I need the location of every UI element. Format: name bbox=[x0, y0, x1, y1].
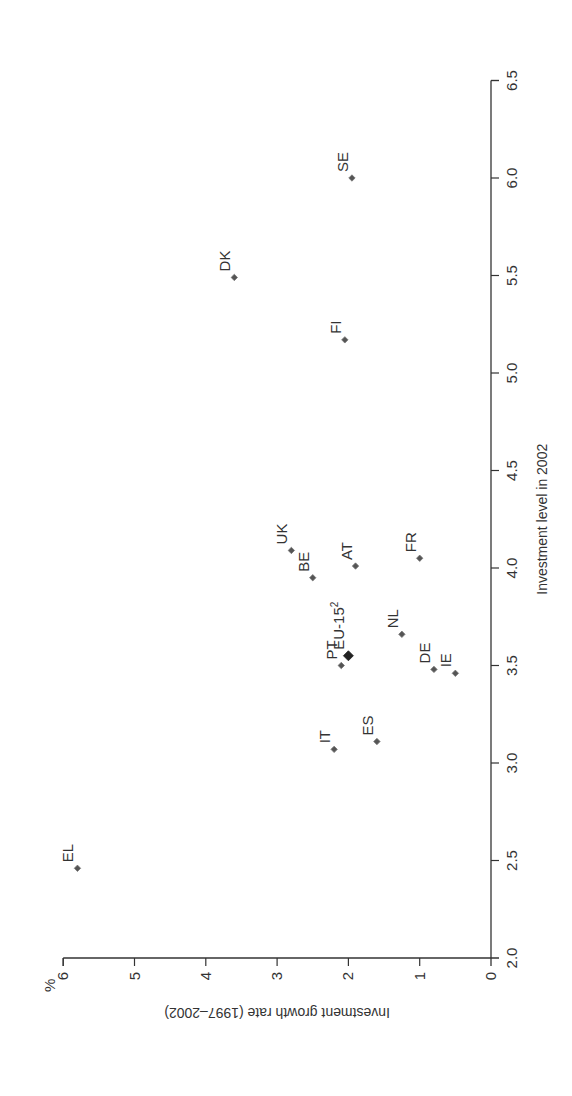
point-label: FR bbox=[402, 532, 419, 552]
diamond-marker bbox=[288, 547, 294, 553]
data-point: EL bbox=[59, 844, 80, 872]
diamond-marker bbox=[399, 631, 405, 637]
diamond-marker bbox=[338, 662, 344, 668]
diamond-marker bbox=[431, 666, 437, 672]
x-tick-label: 2.5 bbox=[503, 850, 520, 871]
point-label: DE bbox=[416, 643, 433, 664]
data-point: AT bbox=[338, 542, 359, 569]
data-point: UK bbox=[273, 524, 294, 554]
point-label: BE bbox=[295, 552, 312, 572]
x-tick-label: 3.0 bbox=[503, 753, 520, 774]
data-point: SE bbox=[334, 152, 355, 181]
scatter-chart: 2.02.53.03.54.04.55.05.56.06.50123456 EL… bbox=[0, 0, 572, 1096]
point-label: EU-152 bbox=[329, 601, 347, 650]
y-tick-label: 4 bbox=[197, 972, 214, 980]
diamond-marker bbox=[417, 555, 423, 561]
x-tick-label: 2.0 bbox=[503, 948, 520, 969]
x-tick-label: 5.0 bbox=[503, 363, 520, 384]
point-label: DK bbox=[216, 251, 233, 272]
x-tick-label: 6.0 bbox=[503, 168, 520, 189]
data-point: DE bbox=[416, 643, 437, 673]
x-tick-label: 5.5 bbox=[503, 265, 520, 286]
diamond-marker bbox=[331, 746, 337, 752]
x-axis-title: Investment level in 2002 bbox=[534, 444, 550, 595]
data-point: BE bbox=[295, 552, 316, 581]
point-label: UK bbox=[273, 524, 290, 545]
point-label: EL bbox=[59, 844, 76, 862]
y-tick-label: 1 bbox=[411, 972, 428, 980]
diamond-marker bbox=[310, 575, 316, 581]
data-point: NL bbox=[384, 609, 405, 637]
point-label: SE bbox=[334, 152, 351, 172]
point-label: NL bbox=[384, 609, 401, 628]
point-label: IE bbox=[437, 653, 454, 667]
y-axis-title: Investment growth rate (1997–2002) bbox=[164, 1005, 390, 1021]
diamond-marker bbox=[452, 670, 458, 676]
y-tick-label: 5 bbox=[126, 972, 143, 980]
diamond-marker bbox=[349, 175, 355, 181]
data-point: FI bbox=[327, 321, 348, 344]
diamond-marker bbox=[343, 651, 353, 661]
point-label: AT bbox=[338, 542, 355, 560]
y-tick-label: 0 bbox=[482, 972, 499, 980]
diamond-marker bbox=[374, 738, 380, 744]
diamond-marker bbox=[352, 563, 358, 569]
data-point: ES bbox=[359, 716, 380, 745]
data-point: IE bbox=[437, 653, 458, 676]
data-points: ELITESIEDEPTEU-152NLBEATFRUKFIDKSE bbox=[59, 152, 458, 872]
point-label: FI bbox=[327, 321, 344, 334]
y-axis-unit: % bbox=[41, 979, 58, 992]
point-label: ES bbox=[359, 716, 376, 736]
diamond-marker bbox=[74, 865, 80, 871]
x-tick-label: 4.0 bbox=[503, 558, 520, 579]
diamond-marker bbox=[231, 274, 237, 280]
x-tick-label: 4.5 bbox=[503, 460, 520, 481]
x-tick-label: 3.5 bbox=[503, 655, 520, 676]
x-tick-label: 6.5 bbox=[503, 70, 520, 91]
y-tick-label: 2 bbox=[339, 972, 356, 980]
diamond-marker bbox=[342, 337, 348, 343]
data-point: FR bbox=[402, 532, 423, 561]
data-point: DK bbox=[216, 251, 237, 281]
y-tick-label: 3 bbox=[268, 972, 285, 980]
point-label: IT bbox=[316, 730, 333, 743]
chart-container: 2.02.53.03.54.04.55.05.56.06.50123456 EL… bbox=[0, 0, 572, 1096]
data-point: IT bbox=[316, 730, 337, 753]
